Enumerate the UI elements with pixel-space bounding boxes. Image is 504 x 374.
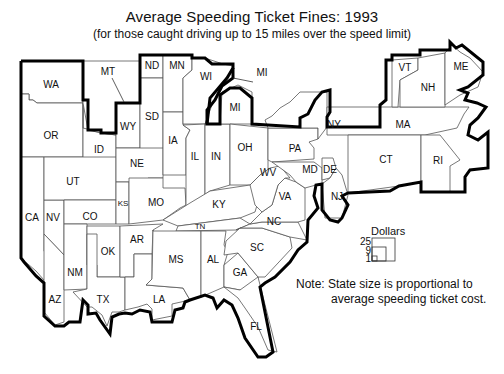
state-ut (44, 157, 116, 200)
label-ia: IA (168, 135, 178, 146)
label-nj: NJ (331, 191, 343, 202)
label-wa: WA (43, 79, 59, 90)
label-mi-up: MI (256, 67, 267, 78)
label-wv: WV (260, 167, 276, 178)
legend-values: 25 9 1 (355, 238, 371, 264)
label-ms: MS (169, 254, 184, 265)
legend-value-1: 1 (355, 255, 371, 264)
label-in: IN (211, 151, 221, 162)
label-az: AZ (49, 294, 62, 305)
label-sd: SD (145, 111, 159, 122)
label-ar: AR (130, 234, 144, 245)
label-nv: NV (46, 212, 60, 223)
label-mi: MI (229, 102, 240, 113)
label-ga: GA (233, 267, 248, 278)
label-me: ME (454, 61, 469, 72)
label-vt: VT (399, 62, 412, 73)
label-wi: WI (200, 71, 212, 82)
label-tn: TN (195, 222, 206, 231)
label-ne: NE (130, 158, 144, 169)
state-or (21, 94, 83, 157)
label-ny: NY (327, 119, 341, 130)
label-al: AL (207, 254, 220, 265)
label-nm: NM (67, 267, 83, 278)
note: Note: State size is proportional to aver… (296, 277, 486, 307)
legend-square-25 (372, 238, 395, 261)
note-line-1: Note: State size is proportional to (296, 277, 473, 291)
legend-title: Dollars (371, 225, 405, 237)
label-nh: NH (421, 82, 435, 93)
state-il (183, 124, 205, 208)
cartogram-map: WA OR CA NV ID MT WY UT CO AZ NM ND SD N… (0, 0, 504, 374)
note-line-2: average speeding ticket cost. (296, 292, 486, 307)
label-ca: CA (25, 212, 39, 223)
label-va: VA (279, 191, 292, 202)
label-ok: OK (101, 246, 116, 257)
label-co: CO (83, 211, 98, 222)
state-nm (64, 224, 87, 290)
label-sc: SC (250, 242, 264, 253)
label-ut: UT (66, 176, 79, 187)
label-nd: ND (145, 60, 159, 71)
state-me (445, 45, 483, 105)
label-or: OR (44, 130, 59, 141)
mi-pointer-line (233, 78, 253, 82)
legend-square-9 (372, 247, 386, 261)
label-nc: NC (267, 216, 281, 227)
label-mo: MO (148, 197, 164, 208)
label-fl: FL (250, 321, 262, 332)
label-ky: KY (212, 199, 226, 210)
label-mn: MN (169, 60, 185, 71)
label-wy: WY (120, 121, 136, 132)
label-il: IL (191, 151, 200, 162)
label-oh: OH (238, 142, 253, 153)
label-mt: MT (101, 66, 115, 77)
label-ma: MA (396, 119, 411, 130)
label-ri: RI (433, 155, 443, 166)
label-pa: PA (289, 143, 302, 154)
label-id: ID (94, 144, 104, 155)
label-la: LA (153, 294, 166, 305)
legend-square-1 (372, 256, 377, 261)
state-fl (224, 277, 277, 352)
label-md: MD (302, 164, 318, 175)
label-ks: KS (118, 199, 129, 208)
label-ct: CT (379, 154, 392, 165)
label-tx: TX (97, 294, 110, 305)
label-de: DE (323, 164, 337, 175)
